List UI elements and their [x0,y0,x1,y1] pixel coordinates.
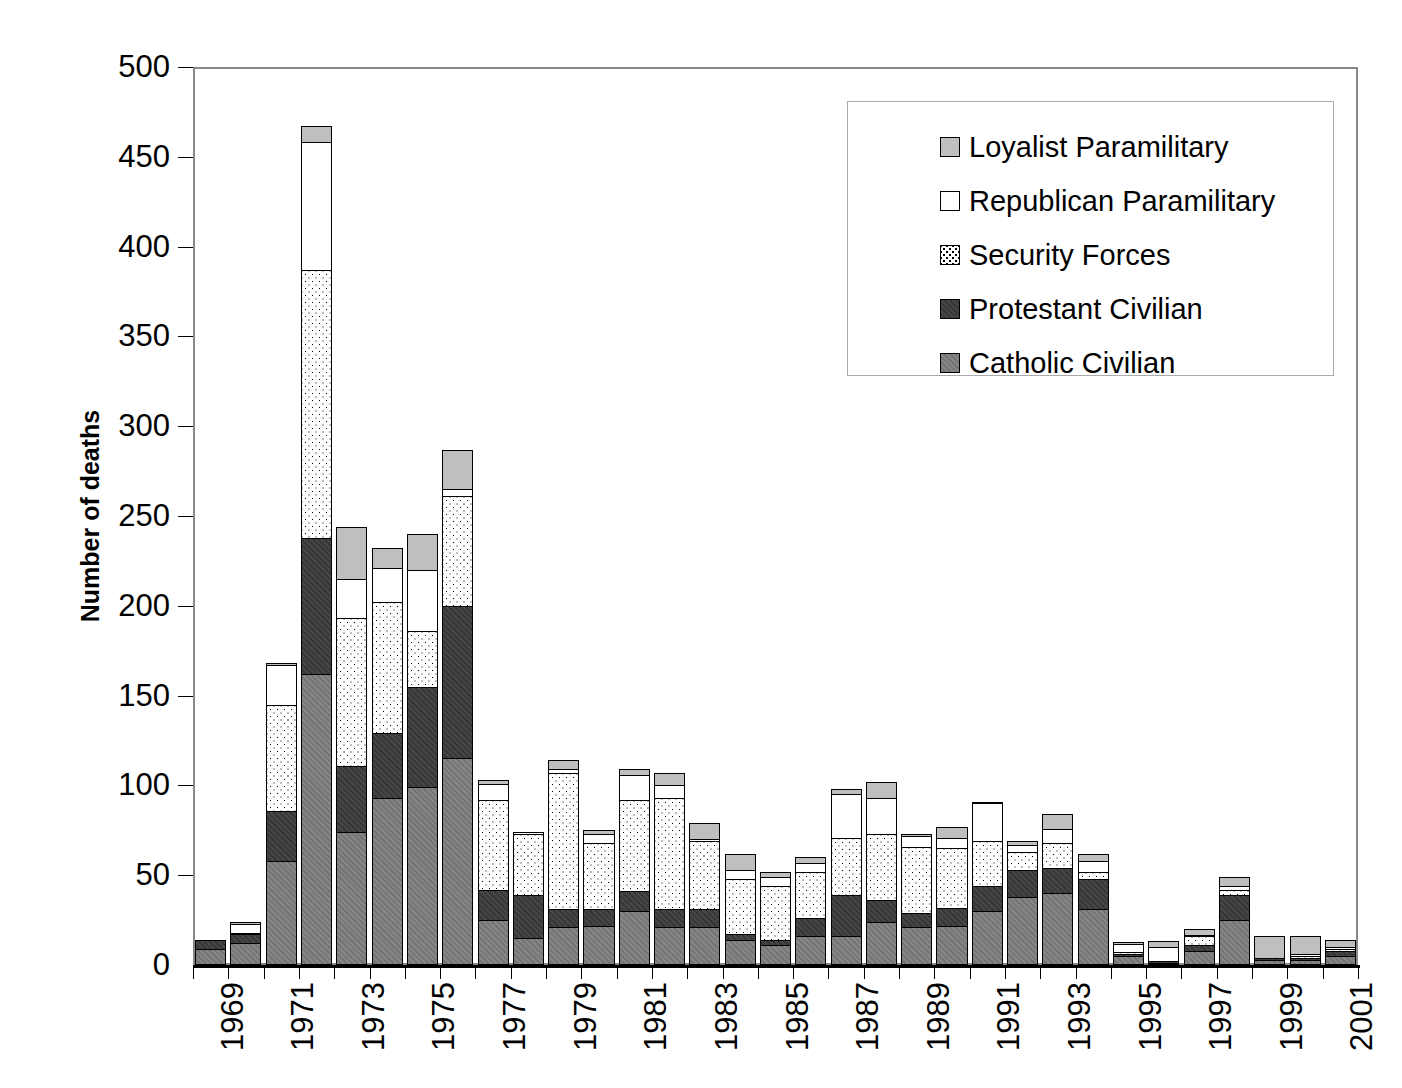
bar-1983[interactable] [689,823,720,965]
bar-2001[interactable] [1325,940,1356,965]
bar-1991[interactable] [972,802,1003,965]
bar-1992[interactable] [1007,841,1038,965]
legend-swatch-icon [940,191,960,211]
bar-segment [1148,947,1179,961]
bar-segment [901,836,932,847]
bar-segment [1042,829,1073,843]
bar-segment [936,908,967,926]
bar-segment [1078,854,1109,861]
legend-item-protestant-civilian[interactable]: Protestant Civilian [848,282,1333,336]
bar-2000[interactable] [1290,936,1321,965]
bar-1985[interactable] [760,872,791,965]
bar-segment [1078,872,1109,879]
bar-segment [654,798,685,909]
bar-1973[interactable] [336,527,367,965]
bar-segment [583,926,614,966]
bar-1984[interactable] [725,854,756,965]
x-axis-tick-label: 1991 [999,982,1019,1088]
bar-segment [266,861,297,965]
bar-1986[interactable] [795,857,826,965]
bar-segment [336,579,367,619]
bar-1969[interactable] [195,940,226,965]
x-axis-tick-label: 1989 [929,982,949,1088]
bar-1978[interactable] [513,832,544,965]
bar-segment [336,832,367,965]
y-axis-tick-label: 500 [40,51,170,82]
bar-segment [936,838,967,849]
bar-1982[interactable] [654,773,685,965]
bar-segment [336,527,367,579]
bar-1987[interactable] [831,789,862,965]
bar-segment [1007,897,1038,965]
bar-segment [1042,814,1073,828]
bar-segment [972,911,1003,965]
x-axis-tick-mark [934,968,935,979]
bar-1974[interactable] [372,548,403,965]
bar-1994[interactable] [1078,854,1109,965]
y-axis-tick-label: 400 [40,231,170,262]
bar-1981[interactable] [619,769,650,965]
bar-segment [195,940,226,949]
bar-segment [901,927,932,965]
bar-segment [1078,909,1109,965]
x-axis-tick-mark [758,968,759,979]
bar-segment [266,665,297,705]
x-axis-tick-label: 1997 [1211,982,1231,1088]
bar-segment [301,538,332,674]
bar-segment [654,785,685,798]
legend-swatch-icon [940,353,960,373]
bar-segment [795,936,826,965]
bar-segment [442,450,473,490]
bar-1996[interactable] [1148,941,1179,965]
x-axis-tick-mark [1111,968,1112,979]
bar-1975[interactable] [407,534,438,965]
bar-segment [901,847,932,913]
bar-1976[interactable] [442,450,473,965]
bar-1999[interactable] [1254,936,1285,965]
bar-1990[interactable] [936,827,967,965]
bar-1971[interactable] [266,663,297,965]
legend-item-catholic-civilian[interactable]: Catholic Civilian [848,336,1333,390]
y-axis-tick-mark [178,606,193,607]
bar-1995[interactable] [1113,942,1144,965]
y-axis-tick-label: 100 [40,769,170,800]
x-axis-tick-label: 1975 [434,982,454,1088]
y-axis-tick-mark [178,516,193,517]
legend-item-security-forces[interactable]: Security Forces [848,228,1333,282]
x-axis-tick-mark [899,968,900,979]
legend-item-loyalist-paramilitary[interactable]: Loyalist Paramilitary [848,120,1333,174]
bar-1997[interactable] [1184,929,1215,965]
bar-segment [548,760,579,769]
bar-segment [407,534,438,570]
bar-segment [1325,956,1356,965]
bar-1979[interactable] [548,760,579,965]
bar-segment [478,800,509,890]
bar-1989[interactable] [901,834,932,965]
bar-segment [478,784,509,800]
x-axis-tick-label: 1993 [1070,982,1090,1088]
x-axis-tick-mark [299,968,300,979]
bar-1988[interactable] [866,782,897,965]
x-axis-tick-mark [1181,968,1182,979]
bar-segment [442,489,473,496]
bar-segment [866,900,897,922]
bar-segment [1078,861,1109,872]
x-axis-tick-label: 1977 [505,982,525,1088]
bar-segment [230,924,261,933]
bar-1998[interactable] [1219,877,1250,965]
bar-segment [619,891,650,911]
bar-1980[interactable] [583,830,614,965]
bar-1977[interactable] [478,780,509,965]
bar-segment [795,872,826,919]
legend-item-republican-paramilitary[interactable]: Republican Paramilitary [848,174,1333,228]
bar-segment [760,877,791,886]
x-axis-tick-label: 1981 [646,982,666,1088]
x-axis-tick-mark [440,968,441,979]
bar-segment [725,870,756,879]
bar-segment [831,936,862,965]
bar-1993[interactable] [1042,814,1073,965]
bar-1972[interactable] [301,126,332,965]
bar-segment [372,548,403,568]
bar-segment [1113,956,1144,965]
bar-1970[interactable] [230,922,261,965]
